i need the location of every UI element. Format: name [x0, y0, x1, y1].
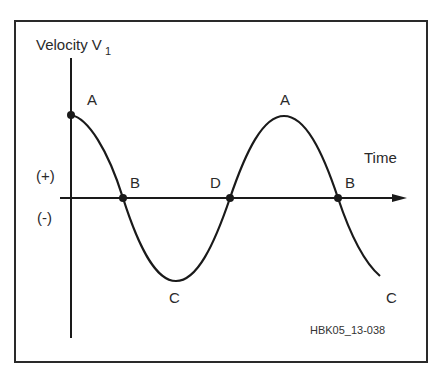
- point-b-second: [334, 194, 342, 202]
- label-b-second: B: [345, 175, 355, 190]
- point-a-start: [67, 111, 75, 119]
- label-c-first: C: [169, 290, 180, 305]
- point-b-first: [119, 194, 127, 202]
- velocity-plot: [0, 0, 446, 378]
- label-d: D: [210, 175, 221, 190]
- x-axis-arrow-icon: [392, 194, 407, 202]
- label-c-end: C: [386, 290, 397, 305]
- positive-label: (+): [36, 168, 55, 183]
- figure-code: HBK05_13-038: [310, 325, 385, 336]
- point-d: [226, 194, 234, 202]
- label-a-peak: A: [280, 92, 290, 107]
- negative-label: (-): [37, 210, 52, 225]
- label-b-first: B: [130, 175, 140, 190]
- x-axis-label: Time: [364, 150, 397, 165]
- label-a-start: A: [87, 92, 97, 107]
- y-axis-label: Velocity V1: [36, 37, 111, 52]
